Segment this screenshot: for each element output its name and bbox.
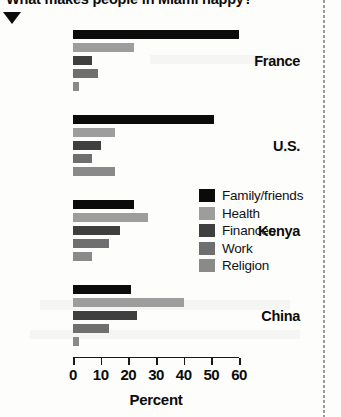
bar	[73, 285, 131, 294]
bar	[73, 239, 109, 248]
axis-tick-label: 0	[58, 366, 88, 383]
axis-tick-label: 50	[196, 366, 226, 383]
legend-label: Health	[222, 206, 260, 221]
axis-tick	[239, 358, 241, 365]
legend-swatch-icon	[199, 259, 215, 272]
bar	[73, 324, 109, 333]
legend-item: Health	[199, 205, 339, 223]
legend-label: Work	[222, 241, 252, 256]
legend-swatch-icon	[199, 189, 215, 202]
bar	[73, 69, 98, 78]
group-label: France	[238, 54, 300, 69]
bar	[73, 154, 92, 163]
legend-swatch-icon	[199, 224, 215, 237]
legend-item: Finances	[199, 222, 339, 240]
bar-stack	[73, 115, 214, 180]
axis-tick-label: 20	[113, 366, 143, 383]
legend-label: Finances	[222, 223, 275, 238]
bar	[73, 200, 134, 209]
x-axis-label: Percent	[73, 391, 239, 408]
chart-page: What makes people in Miami happy? France…	[0, 0, 341, 417]
group-label: China	[238, 309, 300, 324]
bar-stack	[73, 285, 184, 350]
axis-tick	[101, 358, 103, 365]
axis-tick	[128, 358, 130, 365]
axis-tick	[211, 358, 213, 365]
axis-tick-label: 10	[86, 366, 116, 383]
axis-tick	[184, 358, 186, 365]
legend-label: Religion	[222, 258, 269, 273]
bar-stack	[73, 200, 148, 265]
legend-item: Religion	[199, 257, 339, 275]
bar-stack	[73, 30, 239, 95]
axis-tick-label: 60	[224, 366, 254, 383]
x-axis	[73, 357, 239, 365]
bar	[73, 30, 239, 39]
legend-swatch-icon	[199, 242, 215, 255]
bar	[73, 82, 79, 91]
bar	[73, 115, 214, 124]
axis-tick	[156, 358, 158, 365]
bar	[73, 213, 148, 222]
x-axis-tick-labels: 0102030405060	[55, 366, 265, 384]
bar	[73, 298, 184, 307]
bar	[73, 252, 92, 261]
page-title: What makes people in Miami happy?	[6, 0, 316, 7]
chart-legend: Family/friendsHealthFinancesWorkReligion	[199, 187, 339, 275]
axis-tick	[73, 358, 75, 365]
bar	[73, 311, 137, 320]
legend-label: Family/friends	[222, 188, 303, 203]
bar	[73, 56, 92, 65]
axis-tick-label: 40	[169, 366, 199, 383]
bar	[73, 141, 101, 150]
legend-item: Family/friends	[199, 187, 339, 205]
bar	[73, 226, 120, 235]
bar	[73, 128, 115, 137]
bar	[73, 337, 79, 346]
bar	[73, 43, 134, 52]
axis-tick-label: 30	[141, 366, 171, 383]
group-label: U.S.	[238, 139, 300, 154]
bar	[73, 167, 115, 176]
column-divider-rule	[323, 0, 325, 417]
legend-swatch-icon	[199, 207, 215, 220]
legend-item: Work	[199, 240, 339, 258]
